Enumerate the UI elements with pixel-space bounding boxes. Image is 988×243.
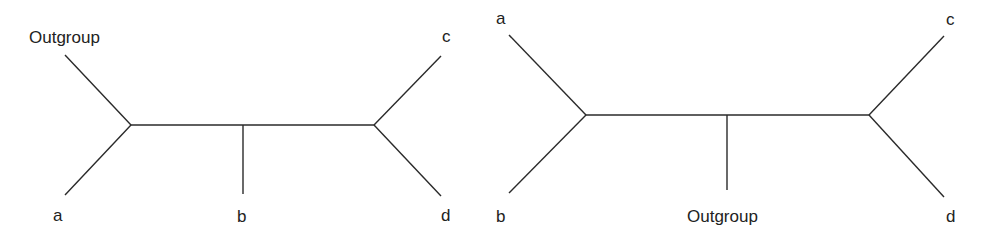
- right-b-branch: [509, 115, 586, 193]
- left-c-label: c: [442, 27, 451, 46]
- phylogenetic-trees-figure: Outgroup a b c d a b Outgroup c d: [0, 0, 988, 243]
- right-a-label: a: [496, 9, 506, 28]
- left-b-label: b: [237, 207, 246, 226]
- left-c-branch: [374, 56, 441, 125]
- right-tree: a b Outgroup c d: [496, 9, 955, 226]
- left-a-label: a: [53, 206, 63, 225]
- left-d-branch: [374, 125, 441, 196]
- right-a-branch: [509, 35, 586, 115]
- left-a-branch: [65, 125, 131, 195]
- right-c-label: c: [946, 10, 955, 29]
- left-tree: Outgroup a b c d: [29, 27, 451, 226]
- right-outgroup-label: Outgroup: [687, 207, 758, 226]
- right-b-label: b: [496, 207, 505, 226]
- left-outgroup-branch: [65, 55, 131, 125]
- right-c-branch: [869, 36, 944, 115]
- left-outgroup-label: Outgroup: [29, 28, 100, 47]
- right-d-label: d: [946, 207, 955, 226]
- left-d-label: d: [441, 206, 450, 225]
- right-d-branch: [869, 115, 944, 197]
